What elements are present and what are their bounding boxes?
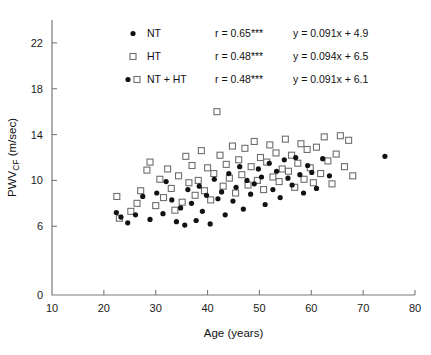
- y-axis-title: PWVCF (m/sec): [6, 118, 21, 197]
- data-point-ht: [192, 192, 198, 198]
- data-point-nt: [147, 217, 152, 222]
- data-point-ht: [346, 137, 352, 143]
- data-point-nt: [185, 187, 190, 192]
- data-point-ht: [325, 158, 331, 164]
- x-tick-label: 60: [305, 302, 317, 314]
- x-axis-title: Age (years): [204, 327, 264, 339]
- data-point-nt: [244, 178, 249, 183]
- data-point-nt: [118, 214, 123, 219]
- data-point-ht: [208, 197, 214, 203]
- legend-row: NTr = 0.65***y = 0.091x + 4.9: [130, 27, 368, 39]
- data-point-nt: [305, 163, 310, 168]
- data-point-nt: [223, 212, 228, 217]
- legend-marker-nt-icon: [130, 31, 135, 36]
- data-point-ht: [310, 180, 316, 186]
- data-point-ht: [301, 176, 307, 182]
- data-point-nt: [169, 197, 174, 202]
- data-point-nt: [197, 184, 202, 189]
- legend-fit-equation: y = 0.094x + 6.5: [293, 50, 368, 62]
- data-point-ht: [147, 159, 153, 165]
- x-tick-label: 40: [201, 302, 213, 314]
- data-point-nt: [133, 212, 138, 217]
- data-point-nt: [327, 173, 332, 178]
- data-point-nt: [252, 181, 257, 186]
- y-axis-title-text: PWVCF (m/sec): [6, 118, 21, 197]
- data-point-ht: [198, 148, 204, 154]
- data-point-ht: [282, 136, 288, 142]
- data-point-ht: [160, 195, 166, 201]
- data-point-nt: [212, 177, 217, 182]
- data-point-nt: [215, 196, 220, 201]
- data-point-ht: [165, 166, 171, 172]
- y-tick-label: 10: [31, 174, 43, 186]
- legend-label: NT + HT: [147, 73, 187, 85]
- data-point-nt: [278, 195, 283, 200]
- data-point-nt: [241, 206, 246, 211]
- data-point-nt: [163, 179, 168, 184]
- data-point-nt: [219, 189, 224, 194]
- data-point-nt: [309, 170, 314, 175]
- data-point-nt: [301, 190, 306, 195]
- scatter-plot-figure: 06101418221020304050607080Age (years)PWV…: [0, 0, 431, 355]
- data-point-ht: [276, 179, 282, 185]
- data-point-ht: [179, 199, 185, 205]
- legend-correlation: r = 0.48***: [215, 50, 263, 62]
- x-tick-label: 70: [357, 302, 369, 314]
- data-point-ht: [144, 167, 150, 173]
- x-tick-label: 30: [150, 302, 162, 314]
- data-point-nt: [248, 192, 253, 197]
- data-point-ht: [183, 153, 189, 159]
- legend-marker-ht-icon: [134, 77, 140, 83]
- data-point-ht: [205, 165, 211, 171]
- data-point-ht: [285, 168, 291, 174]
- data-point-nt: [237, 164, 242, 169]
- data-point-nt: [160, 211, 165, 216]
- data-point-nt: [289, 182, 294, 187]
- data-point-ht: [128, 208, 134, 214]
- x-tick-label: 80: [409, 302, 421, 314]
- data-point-ht: [313, 144, 319, 150]
- data-point-ht: [248, 164, 254, 170]
- data-point-ht: [211, 171, 217, 177]
- data-point-nt: [267, 161, 272, 166]
- data-point-nt: [230, 198, 235, 203]
- legend-fit-equation: y = 0.091x + 6.1: [293, 73, 368, 85]
- data-point-ht: [321, 134, 327, 140]
- data-point-ht: [270, 174, 276, 180]
- plot-canvas: 06101418221020304050607080Age (years)PWV…: [0, 0, 431, 355]
- data-point-ht: [239, 172, 245, 178]
- data-point-nt: [382, 154, 387, 159]
- data-point-ht: [195, 177, 201, 183]
- data-point-ht: [168, 185, 174, 191]
- data-point-ht: [295, 160, 301, 166]
- y-tick-label: 22: [31, 37, 43, 49]
- legend-row: HTr = 0.48***y = 0.094x + 6.5: [130, 50, 368, 62]
- data-point-nt: [182, 223, 187, 228]
- data-point-nt: [154, 190, 159, 195]
- data-point-nt: [125, 220, 130, 225]
- data-point-nt: [189, 201, 194, 206]
- legend-fit-equation: y = 0.091x + 4.9: [293, 27, 368, 39]
- data-point-nt: [233, 185, 238, 190]
- data-point-nt: [282, 157, 287, 162]
- data-point-ht: [304, 146, 310, 152]
- data-point-ht: [333, 151, 339, 157]
- y-tick-label: 18: [31, 83, 43, 95]
- data-point-ht: [350, 173, 356, 179]
- x-tick-label: 10: [46, 302, 58, 314]
- data-point-ht: [214, 109, 220, 115]
- data-point-ht: [242, 145, 248, 151]
- data-point-nt: [270, 187, 275, 192]
- data-point-nt: [226, 171, 231, 176]
- data-point-ht: [329, 181, 335, 187]
- data-point-ht: [157, 176, 163, 182]
- data-point-ht: [298, 141, 304, 147]
- data-point-nt: [297, 172, 302, 177]
- legend-label: HT: [147, 50, 162, 62]
- data-point-nt: [320, 156, 325, 161]
- data-point-nt: [194, 218, 199, 223]
- data-point-ht: [229, 143, 235, 149]
- data-point-nt: [178, 205, 183, 210]
- data-point-nt: [174, 219, 179, 224]
- data-point-ht: [223, 161, 229, 167]
